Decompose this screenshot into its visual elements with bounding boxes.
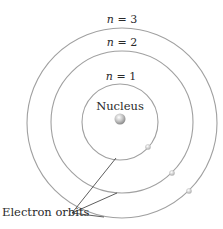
electron-orbits-label: Electron orbits (2, 207, 89, 219)
equals-sign: = (114, 36, 130, 49)
orbit-label-n1: n = 1 (106, 71, 136, 82)
orbit-label-n3: n = 3 (107, 14, 137, 25)
electron-n1 (145, 144, 150, 149)
n-value: 1 (129, 70, 136, 83)
n-value: 2 (130, 36, 137, 49)
atom-diagram (0, 0, 223, 229)
nucleus (115, 114, 126, 125)
nucleus-label: Nucleus (96, 101, 144, 113)
equals-sign: = (114, 13, 130, 26)
electron-n3 (186, 188, 191, 193)
orbit-label-n2: n = 2 (107, 37, 137, 48)
n-value: 3 (130, 13, 137, 26)
equals-sign: = (113, 70, 129, 83)
electron-n2 (169, 170, 174, 175)
